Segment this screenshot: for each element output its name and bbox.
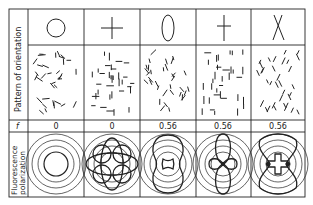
row-label-polarization-2: polarization: [18, 151, 27, 195]
hourglass-polar-icon: [259, 134, 297, 194]
plus-symbol-icon: [101, 17, 123, 39]
pattern-row: [33, 50, 299, 116]
pattern-cell-2: [91, 52, 134, 116]
circle-symbol-icon: [47, 19, 65, 37]
pattern-cell-3: [144, 50, 189, 112]
f-value-2: 0: [109, 122, 114, 131]
f-value-4: 0.56: [214, 122, 232, 131]
concentric-circles: [26, 134, 308, 194]
f-value-1: 0: [53, 122, 58, 131]
f-value-3: 0.56: [159, 122, 177, 131]
row-label-f: f: [16, 122, 20, 131]
dagger-symbol-icon: [217, 15, 231, 41]
ellipse-symbol-icon: [162, 15, 174, 41]
vertical-peanut-polar-icon: [153, 135, 183, 193]
pattern-cell-5: [257, 50, 300, 114]
pattern-cell-4: [202, 50, 243, 116]
row-label-pattern: Pattern of orientation: [14, 27, 23, 112]
f-value-5: 0.56: [269, 122, 287, 131]
vertical-clover-polar-icon: [209, 134, 237, 194]
x-symbol-icon: [273, 15, 284, 40]
orientation-figure: Pattern of orientation f Fluorescence po…: [0, 0, 313, 205]
symbol-row: [47, 15, 284, 41]
pattern-cell-1: [33, 51, 76, 114]
polarization-row: [26, 134, 308, 194]
